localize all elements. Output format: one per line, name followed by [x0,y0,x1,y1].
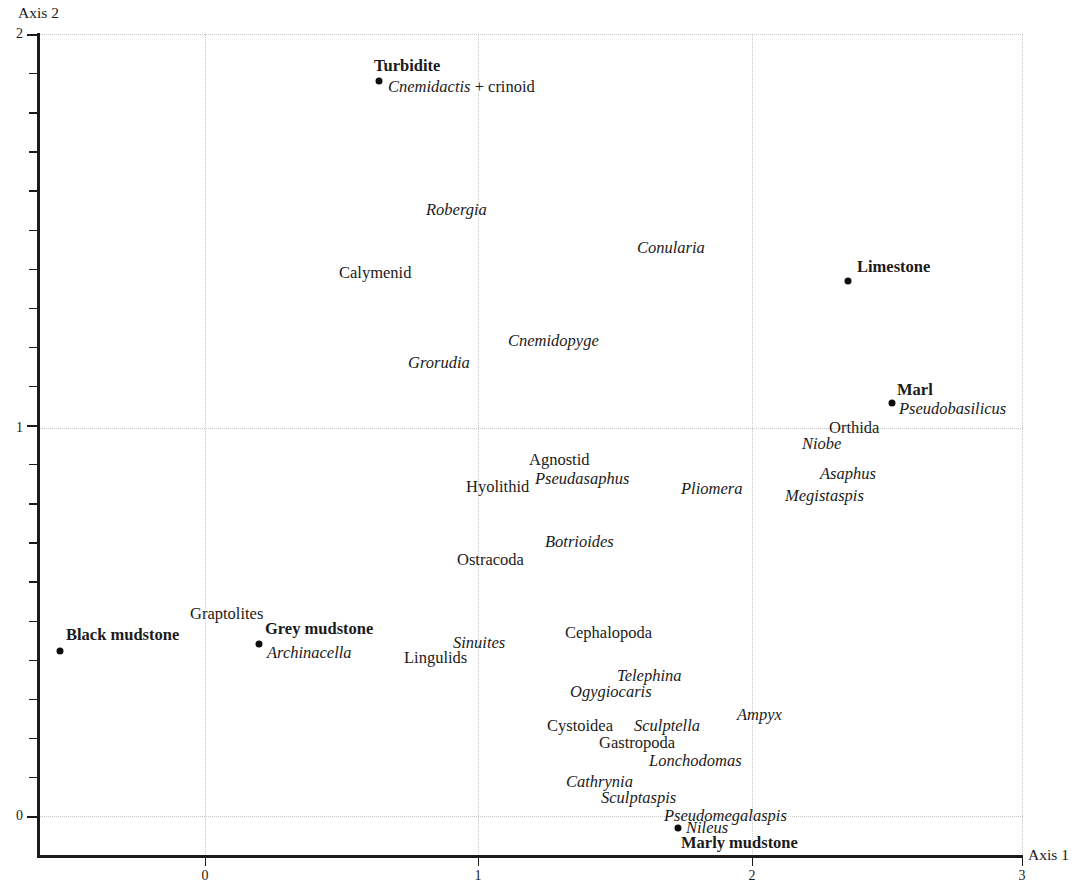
y-tick-1.6 [29,190,38,191]
label-asaphus: Asaphus [820,466,876,483]
point-dot-marl [889,400,896,407]
x-tick-label-3: 3 [1019,868,1026,884]
x-tick-2 [752,857,753,866]
label-megistaspis: Megistaspis [785,488,864,505]
label-pseudobasilicus: Pseudobasilicus [899,401,1006,418]
y-tick-1.1 [29,386,38,387]
label-lingulids: Lingulids [404,650,467,667]
x-axis-line [37,855,1023,858]
y-tick-1.2 [29,347,38,348]
point-dot-black-mudstone [57,648,64,655]
y-tick-0.6 [29,581,38,582]
y-tick-1.7 [29,151,38,152]
x-axis-title: Axis 1 [1028,846,1069,864]
y-tick-1.8 [29,112,38,113]
y-tick-0.1 [29,777,38,778]
label-ogygiocaris: Ogygiocaris [570,684,652,701]
label-turbidite: Turbidite [374,58,440,75]
label-gastropoda: Gastropoda [599,735,675,752]
y-tick-0.7 [29,542,38,543]
point-dot-grey-mudstone [256,641,263,648]
gridline-x-3 [1022,34,1023,856]
label-botrioides: Botrioides [545,534,614,551]
y-tick-0.8 [29,503,38,504]
label-calymenid: Calymenid [339,265,411,282]
x-tick-0 [205,857,206,866]
gridline-x-0 [205,34,206,856]
y-axis-title: Axis 2 [18,4,59,22]
x-tick-label-2: 2 [749,868,756,884]
label-marl: Marl [897,382,933,399]
correspondence-analysis-plot: 2 1 0 0 1 2 3 Axis 2 Axis 1 Turbidite Cn… [0,0,1086,896]
point-dot-turbidite [376,78,383,85]
label-pseudasaphus: Pseudasaphus [535,471,629,488]
point-dot-marly-mudstone [675,825,682,832]
label-grey-mudstone: Grey mudstone [265,621,373,638]
y-tick-1.9 [29,73,38,74]
label-cnemidactis-crinoid: Cnemidactis + crinoid [388,79,535,96]
x-tick-1 [478,857,479,866]
x-tick-label-0: 0 [202,868,209,884]
y-axis-line [37,33,40,857]
label-lonchodomas: Lonchodomas [649,753,742,770]
label-black-mudstone: Black mudstone [66,627,179,644]
y-tick-2.0 [27,34,38,36]
gridline-x-2 [752,34,753,856]
label-cnemidactis-genus: Cnemidactis [388,77,471,96]
label-niobe: Niobe [802,436,841,453]
y-tick-1.5 [29,230,38,231]
y-tick-0.9 [29,464,38,465]
x-tick-3 [1022,857,1023,866]
y-tick-1.3 [29,308,38,309]
label-sculptaspis: Sculptaspis [601,790,676,807]
y-tick-1.4 [29,269,38,270]
label-hyolithid: Hyolithid [466,479,529,496]
y-tick-0.2 [29,738,38,739]
label-cnemidopyge: Cnemidopyge [508,333,599,350]
label-robergia: Robergia [426,202,487,219]
point-dot-limestone [845,278,852,285]
y-tick-0.4 [29,660,38,661]
label-grorudia: Grorudia [408,355,470,372]
label-ostracoda: Ostracoda [457,552,524,569]
label-cnemidactis-suffix: + crinoid [471,77,535,96]
label-agnostid: Agnostid [529,452,590,469]
y-tick-label-1: 1 [1,420,23,436]
label-graptolites: Graptolites [190,606,263,623]
label-ampyx: Ampyx [737,707,782,724]
label-conularia: Conularia [637,240,705,257]
y-tick-0.0 [27,816,38,818]
x-tick-label-1: 1 [475,868,482,884]
label-cephalopoda: Cephalopoda [565,625,652,642]
label-marly-mudstone: Marly mudstone [681,835,798,852]
y-tick-0.5 [29,621,38,622]
y-tick-label-0: 0 [1,808,23,824]
y-tick-0.3 [29,699,38,700]
label-limestone: Limestone [857,259,930,276]
gridline-x-1 [478,34,479,856]
gridline-y-2 [38,34,1023,35]
label-archinacella: Archinacella [267,645,352,662]
y-tick-1.0 [27,425,38,427]
gridline-y-0 [38,816,1023,817]
y-tick-label-2: 2 [1,26,23,42]
label-pliomera: Pliomera [681,481,742,498]
